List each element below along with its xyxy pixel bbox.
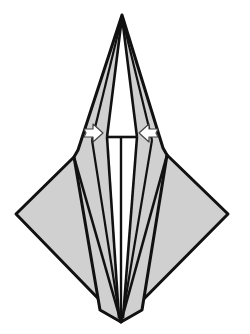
origami-diagram: [0, 0, 250, 334]
